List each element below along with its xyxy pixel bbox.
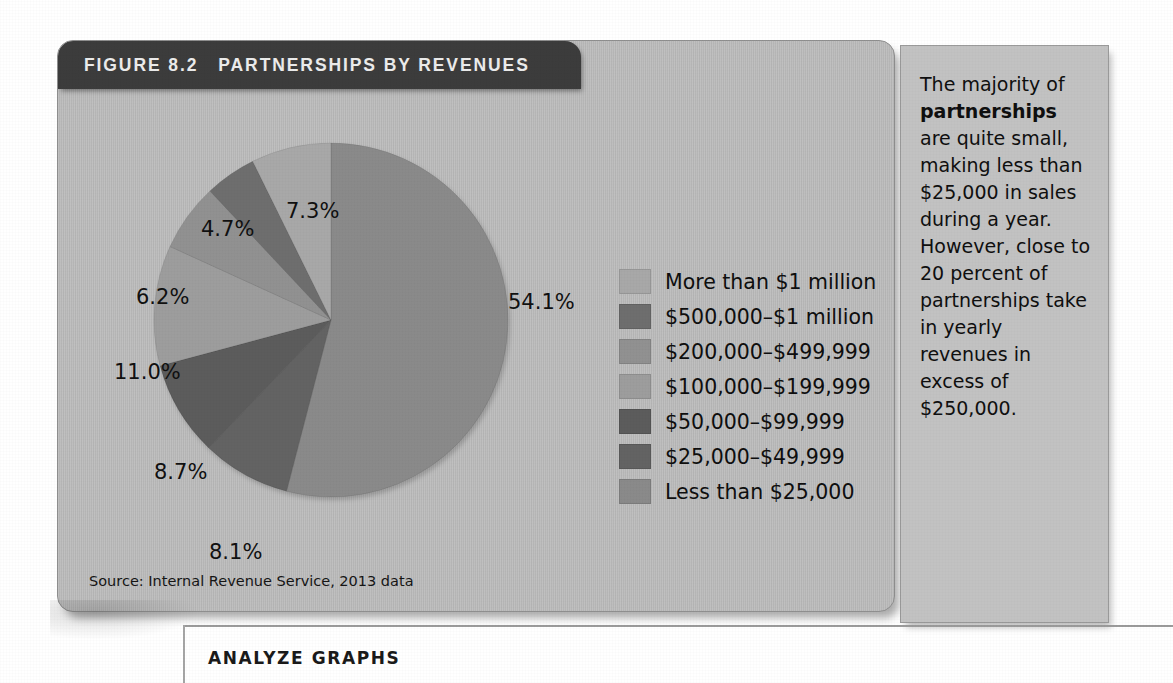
figure-title: PARTNERSHIPS BY REVENUES (218, 55, 529, 76)
pie-percent-label: 6.2% (136, 285, 189, 309)
legend-label: More than $1 million (665, 270, 876, 294)
legend-swatch (619, 269, 651, 294)
pie-chart-svg (153, 142, 509, 498)
pie-percent-label: 4.7% (201, 217, 254, 241)
side-note-bold: partnerships (920, 100, 1057, 122)
figure-source: Source: Internal Revenue Service, 2013 d… (89, 573, 414, 589)
figure-number: FIGURE 8.2 (84, 55, 198, 76)
figure-body: 7.3%4.7%6.2%11.0%8.7%8.1%54.1% More than… (58, 89, 894, 611)
legend-label: $25,000–$49,999 (665, 445, 845, 469)
legend-swatch (619, 374, 651, 399)
legend-swatch (619, 479, 651, 504)
analyze-graphs-heading: ANALYZE GRAPHS (208, 648, 400, 668)
legend-swatch (619, 444, 651, 469)
legend-label: $500,000–$1 million (665, 305, 874, 329)
legend-item: $25,000–$49,999 (619, 439, 876, 474)
side-note-part2: are quite small, making less than $25,00… (920, 127, 1090, 419)
pie-percent-label: 8.7% (154, 460, 207, 484)
bottom-divider (183, 625, 1173, 627)
pie-percent-label: 7.3% (286, 199, 339, 223)
legend-label: $100,000–$199,999 (665, 375, 871, 399)
pie-chart (153, 142, 509, 498)
legend-label: $50,000–$99,999 (665, 410, 845, 434)
pie-percent-label: 54.1% (508, 290, 575, 314)
side-note-text: The majority of partnerships are quite s… (920, 71, 1091, 422)
ghost-page-text (622, 6, 1142, 40)
figure-header-tab: FIGURE 8.2 PARTNERSHIPS BY REVENUES (58, 41, 581, 89)
pie-percent-label: 8.1% (209, 540, 262, 564)
legend-label: $200,000–$499,999 (665, 340, 871, 364)
chart-legend: More than $1 million$500,000–$1 million$… (619, 264, 876, 509)
figure-card: FIGURE 8.2 PARTNERSHIPS BY REVENUES 7.3%… (57, 40, 895, 612)
legend-swatch (619, 339, 651, 364)
legend-label: Less than $25,000 (665, 480, 854, 504)
legend-item: $100,000–$199,999 (619, 369, 876, 404)
legend-item: More than $1 million (619, 264, 876, 299)
legend-item: Less than $25,000 (619, 474, 876, 509)
legend-swatch (619, 409, 651, 434)
legend-item: $50,000–$99,999 (619, 404, 876, 439)
legend-swatch (619, 304, 651, 329)
legend-item: $200,000–$499,999 (619, 334, 876, 369)
pie-percent-label: 11.0% (114, 360, 181, 384)
side-note-part1: The majority of (920, 73, 1065, 95)
bottom-left-rule (183, 625, 185, 683)
side-note-panel: The majority of partnerships are quite s… (900, 45, 1109, 623)
legend-item: $500,000–$1 million (619, 299, 876, 334)
